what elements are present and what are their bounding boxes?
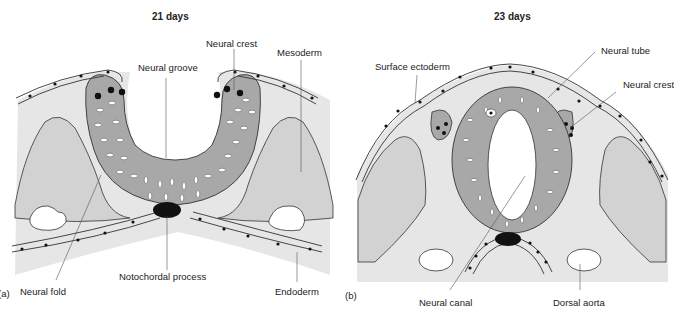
dorsal-aorta-left-b [419, 249, 453, 271]
notochord-b [495, 232, 521, 246]
label-neural-crest-a: Neural crest [206, 38, 257, 49]
panel-b-title: 23 days [494, 11, 531, 22]
label-neural-tube: Neural tube [601, 45, 650, 56]
label-neural-fold: Neural fold [20, 286, 66, 297]
panel-a-tag: (a) [0, 288, 10, 299]
notochordal-process [153, 202, 181, 218]
panel-a-title: 21 days [152, 11, 189, 22]
neural-canal [488, 110, 536, 220]
label-neural-groove: Neural groove [138, 62, 198, 73]
label-mesoderm: Mesoderm [277, 47, 322, 58]
panel-b-figure [356, 52, 668, 290]
label-endoderm: Endoderm [275, 286, 319, 297]
panel-a-figure [12, 49, 333, 282]
label-notochordal-process: Notochordal process [119, 271, 206, 282]
label-dorsal-aorta: Dorsal aorta [553, 297, 605, 308]
dorsal-aorta-right-b [567, 249, 601, 271]
label-surface-ectoderm: Surface ectoderm [375, 61, 450, 72]
label-neural-canal: Neural canal [419, 297, 472, 308]
diagram-canvas [0, 0, 674, 312]
label-neural-crest-b: Neural crest [623, 79, 674, 90]
panel-b-tag: (b) [345, 290, 357, 301]
